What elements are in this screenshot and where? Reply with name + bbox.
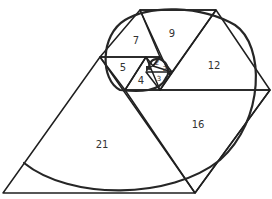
spiral-outer-arc — [24, 9, 256, 190]
triangle-12 — [160, 10, 270, 90]
triangle-16 — [125, 90, 270, 193]
spiral — [24, 9, 256, 190]
label-2a: 2 — [155, 59, 159, 67]
label-12: 12 — [208, 60, 221, 71]
label-7: 7 — [133, 35, 139, 46]
label-5: 5 — [120, 62, 126, 73]
label-4: 4 — [138, 75, 144, 86]
label-21: 21 — [96, 139, 109, 150]
label-3: 3 — [157, 75, 161, 83]
label-9: 9 — [169, 28, 175, 39]
labels: 21 16 12 9 7 5 4 3 2 2 — [96, 28, 221, 150]
label-16: 16 — [192, 119, 205, 130]
label-2b: 2 — [163, 65, 167, 73]
padovan-spiral-diagram: 21 16 12 9 7 5 4 3 2 2 — [0, 0, 272, 199]
outer-edge-right-bottom — [195, 90, 270, 193]
